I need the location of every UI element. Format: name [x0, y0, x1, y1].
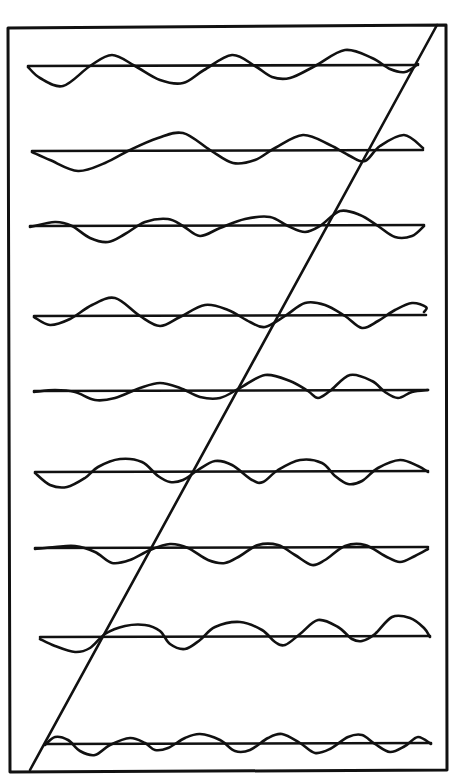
wave-diagram [0, 0, 463, 779]
wave-row [28, 50, 418, 87]
wave-row [34, 298, 427, 328]
wave-row [30, 210, 424, 242]
wave-row [35, 544, 428, 565]
wave-row [32, 132, 423, 171]
wave-curve [28, 50, 418, 87]
baseline [32, 150, 423, 151]
wave-row [45, 734, 431, 755]
diagonal-line [30, 25, 437, 770]
wave-curve [34, 375, 428, 401]
wave-row [35, 459, 428, 488]
wave-row [34, 375, 428, 401]
baseline [28, 65, 418, 66]
wave-curve [34, 298, 427, 328]
diagram-canvas [0, 0, 463, 779]
baseline [34, 390, 428, 391]
outer-frame [8, 25, 447, 772]
baseline [34, 315, 426, 316]
